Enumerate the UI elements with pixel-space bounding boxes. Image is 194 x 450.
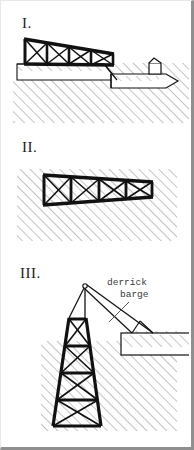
panel-stage-2: II. <box>1 131 189 256</box>
panel-stage-3: III. derrick barge <box>1 256 189 448</box>
derrick-barge-leader-line <box>109 302 129 322</box>
derrick-barge-hull <box>121 333 189 355</box>
crane-boom <box>85 285 153 333</box>
stage-1-illustration <box>1 1 189 131</box>
lifting-sling <box>69 284 87 318</box>
stage-2-illustration <box>1 131 189 256</box>
stage-3-illustration <box>1 256 189 448</box>
jacket-truss-1 <box>24 39 114 65</box>
panel-stage-1: I. <box>1 1 189 131</box>
figure-frame: I. <box>0 0 194 450</box>
